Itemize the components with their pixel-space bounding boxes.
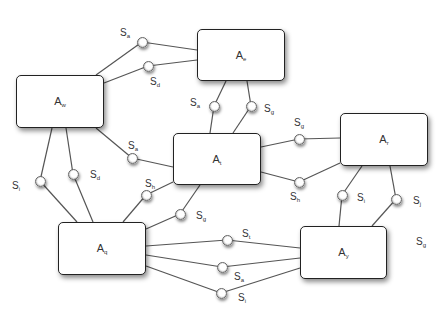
socket-d-icon [143,61,154,72]
socket-d-icon [68,169,79,180]
agent-socket-diagram: Aw Ae At Ar Aq Ay SaSdSaSgSaSgShSiSdShSg… [0,0,442,320]
socket-i-icon [337,190,348,201]
socket-a-icon [209,101,220,112]
socket-label-a: Sa [128,140,138,152]
socket-t-icon [222,235,233,246]
connection-line [146,240,227,246]
socket-g-icon [294,134,305,145]
socket-label-i: Si [238,292,246,304]
socket-label-g: Sg [294,117,304,129]
socket-h-icon [141,190,152,201]
socket-label-a: Sa [120,27,130,39]
connection-line [96,128,132,158]
connection-line [222,258,300,267]
connection-line [221,268,300,293]
socket-label-i: Si [12,180,20,192]
agent-box-w: Aw [16,75,104,128]
socket-label-g: Sg [416,236,426,248]
connection-line [96,42,142,75]
socket-label-j: Sj [413,195,421,207]
agent-label-t: At [212,153,221,166]
connection-line [148,60,197,66]
socket-g-icon [246,101,257,112]
agent-box-q: Aq [58,222,146,275]
socket-label-d: Sd [150,76,160,88]
agent-box-r: Ar [340,113,428,166]
socket-i-icon [216,288,227,299]
socket-a-icon [217,262,228,273]
connection-line [73,174,93,222]
agent-box-t: At [173,133,261,185]
socket-label-g: Sg [196,210,206,222]
socket-label-t: St [242,228,250,240]
agent-box-y: Ay [300,226,387,279]
socket-label-g: Sg [264,103,274,115]
socket-h-icon [294,177,305,188]
socket-label-a: Sa [190,97,200,109]
socket-label-d: Sd [90,169,100,181]
socket-label-i: Si [357,192,365,204]
agent-label-r: Ar [379,133,388,146]
agent-box-e: Ae [197,29,285,81]
agent-label-w: Aw [54,95,66,108]
connection-line [299,138,340,139]
connection-line [299,163,340,182]
connection-line [227,240,300,248]
connection-line [132,158,173,167]
socket-j-icon [391,194,402,205]
agent-label-y: Ay [338,246,348,259]
connection-line [40,181,77,222]
agent-label-q: Aq [97,242,108,255]
connection-line [146,266,221,293]
socket-label-h: Sh [145,178,155,190]
socket-a-icon [127,153,138,164]
socket-label-a: Sa [234,271,244,283]
socket-g-icon [175,209,186,220]
connection-line [146,255,222,267]
agent-label-e: Ae [236,49,247,62]
connection-line [104,66,148,83]
socket-a-icon [137,37,148,48]
socket-i-icon [35,176,46,187]
connection-line [40,128,52,181]
socket-label-h: Sh [290,191,300,203]
connection-line [66,128,73,174]
connection-line [142,42,197,50]
